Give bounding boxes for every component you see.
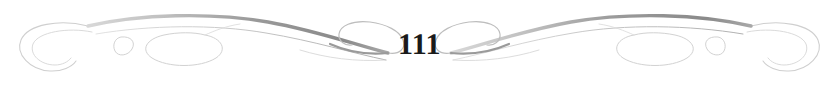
ornament-right-half [435,16,819,71]
page-footer: 111 [0,0,839,88]
ornament-left-half [20,16,404,71]
scroll-flourish-ornament-icon [0,0,839,88]
